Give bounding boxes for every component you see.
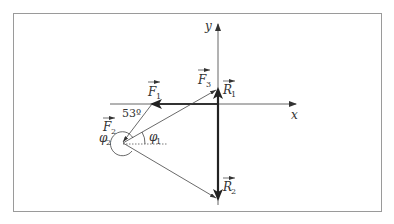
svg-text:1: 1: [156, 137, 161, 146]
svg-text:1: 1: [156, 92, 161, 101]
force-diagram: x y F 1 F 3 R 1 R: [0, 0, 394, 224]
x-axis-label: x: [291, 108, 298, 122]
label-phi1: φ 1: [149, 130, 161, 146]
label-r2: R 2: [222, 178, 236, 196]
svg-text:2: 2: [111, 127, 116, 136]
svg-text:2: 2: [231, 187, 236, 196]
angle-arc-phi1: [142, 132, 145, 144]
svg-text:3: 3: [206, 80, 211, 89]
svg-text:53º: 53º: [122, 107, 141, 120]
svg-text:1: 1: [231, 90, 236, 99]
label-angle-53: 53º: [122, 107, 141, 120]
line-c-to-r2: [123, 143, 216, 198]
y-axis-label: y: [204, 19, 212, 33]
label-f1: F 1: [147, 82, 161, 101]
svg-text:2: 2: [106, 138, 111, 147]
label-f3: F 3: [197, 70, 211, 89]
label-r1: R 1: [222, 81, 236, 99]
